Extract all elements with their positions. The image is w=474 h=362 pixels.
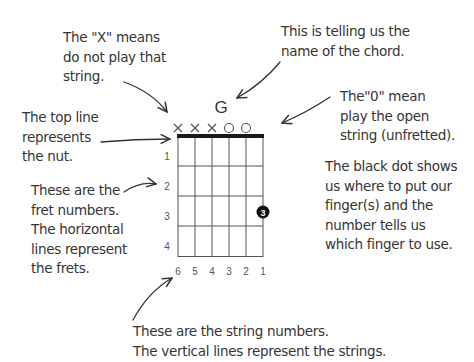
svg-text:6: 6 (175, 266, 181, 277)
svg-text:1: 1 (164, 151, 170, 162)
svg-text:4: 4 (209, 266, 215, 277)
mute-marker-icon (174, 124, 182, 132)
svg-text:2: 2 (164, 181, 170, 192)
finger-dot: 3 (257, 206, 270, 219)
arrow-icon (101, 139, 170, 142)
arrow-icon (133, 278, 172, 320)
open-marker-icon (242, 124, 251, 133)
fret-numbers: 1 2 3 4 (164, 151, 170, 252)
arrow-icon (124, 82, 167, 112)
mute-marker-icon (191, 124, 199, 132)
nut (177, 134, 264, 138)
svg-text:3: 3 (164, 211, 170, 222)
svg-text:4: 4 (164, 241, 170, 252)
svg-text:3: 3 (226, 266, 232, 277)
svg-text:2: 2 (243, 266, 249, 277)
open-marker-icon (225, 124, 234, 133)
arrow-icon (124, 183, 156, 192)
chord-name: G (214, 98, 227, 117)
string-markers (174, 124, 251, 133)
svg-text:5: 5 (192, 266, 198, 277)
svg-text:3: 3 (260, 208, 265, 218)
arrow-icon (237, 62, 280, 98)
fretboard-grid (178, 136, 263, 257)
string-numbers: 6 5 4 3 2 1 (175, 266, 266, 277)
chord-diagram: G 1 2 3 4 6 5 4 3 (0, 0, 474, 362)
svg-text:1: 1 (260, 266, 266, 277)
arrow-icon (282, 97, 330, 123)
mute-marker-icon (208, 124, 216, 132)
